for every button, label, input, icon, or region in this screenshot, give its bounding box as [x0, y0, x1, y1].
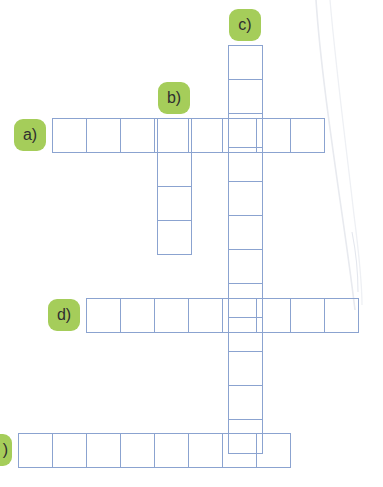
crossword-page: a)b)c)d)) — [0, 0, 383, 487]
crossword-word-e — [18, 433, 291, 468]
crossword-cell[interactable] — [157, 118, 192, 153]
crossword-cell[interactable] — [222, 298, 257, 333]
crossword-cell[interactable] — [157, 152, 192, 187]
crossword-cell[interactable] — [228, 249, 263, 284]
crossword-cell[interactable] — [157, 220, 192, 255]
crossword-cell[interactable] — [228, 45, 263, 80]
crossword-cell[interactable] — [120, 298, 155, 333]
crossword-word-c — [228, 45, 263, 454]
crossword-cell[interactable] — [324, 298, 359, 333]
clue-label-a: a) — [14, 119, 46, 151]
crossword-cell[interactable] — [52, 118, 87, 153]
clue-label-e: ) — [0, 434, 12, 466]
crossword-word-d — [86, 298, 359, 333]
crossword-cell[interactable] — [228, 351, 263, 386]
crossword-word-b — [157, 118, 192, 255]
crossword-cell[interactable] — [188, 298, 223, 333]
crossword-cell[interactable] — [290, 118, 325, 153]
crossword-cell[interactable] — [18, 433, 53, 468]
crossword-cell[interactable] — [154, 298, 189, 333]
crossword-cell[interactable] — [228, 113, 263, 148]
crossword-cell[interactable] — [256, 433, 291, 468]
crossword-cell[interactable] — [290, 298, 325, 333]
crossword-cell[interactable] — [86, 118, 121, 153]
crossword-cell[interactable] — [157, 186, 192, 221]
crossword-cell[interactable] — [86, 298, 121, 333]
crossword-cell[interactable] — [188, 118, 223, 153]
crossword-cell[interactable] — [154, 433, 189, 468]
crossword-cell[interactable] — [228, 79, 263, 114]
crossword-cell[interactable] — [228, 385, 263, 420]
crossword-cell[interactable] — [188, 433, 223, 468]
crossword-cell[interactable] — [222, 433, 257, 468]
crossword-cell[interactable] — [228, 147, 263, 182]
crossword-cell[interactable] — [120, 433, 155, 468]
crossword-cell[interactable] — [256, 298, 291, 333]
crossword-cell[interactable] — [52, 433, 87, 468]
crossword-cell[interactable] — [228, 181, 263, 216]
clue-label-d: d) — [48, 299, 80, 331]
crossword-cell[interactable] — [86, 433, 121, 468]
crossword-cell[interactable] — [228, 215, 263, 250]
clue-label-b: b) — [158, 82, 190, 114]
crossword-cell[interactable] — [120, 118, 155, 153]
clue-label-c: c) — [229, 9, 261, 41]
